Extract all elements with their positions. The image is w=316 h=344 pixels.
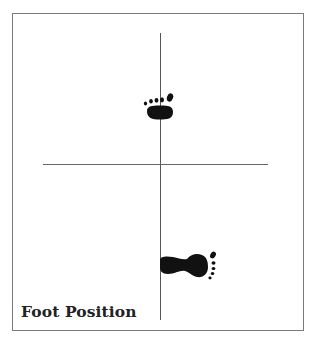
diagram-frame: [12, 13, 304, 331]
figure-caption: Foot Position: [21, 302, 137, 321]
footprint-icon: [159, 250, 219, 282]
footprint-icon: [143, 93, 179, 123]
horizontal-axis-line: [43, 164, 268, 165]
